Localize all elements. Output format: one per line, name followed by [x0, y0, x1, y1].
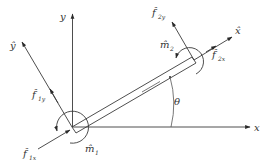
rod — [72, 57, 196, 133]
svg-text:2y: 2y — [157, 13, 166, 21]
svg-text:m̂: m̂ — [85, 143, 94, 154]
svg-text:1: 1 — [95, 149, 99, 156]
free-body-diagram: y x ŷ f̂ 1y x̂ f̂ 2x f̂ 2 — [0, 0, 272, 162]
force-f2y-arrow — [172, 22, 194, 60]
force-f2y-label: f̂ 2y — [151, 7, 166, 21]
svg-text:1x: 1x — [29, 154, 37, 161]
svg-text:m̂: m̂ — [160, 39, 169, 50]
force-f1y-label: f̂ 1y — [31, 89, 46, 103]
svg-text:f̂: f̂ — [211, 49, 218, 60]
force-f1x-arrow — [38, 130, 70, 149]
svg-text:1y: 1y — [38, 95, 46, 103]
x-axis-label: x — [254, 122, 260, 133]
svg-text:f̂: f̂ — [31, 89, 38, 100]
force-f2x-label: f̂ 2x — [211, 49, 226, 62]
force-f1x-label: f̂ 1x — [22, 148, 37, 161]
svg-text:f̂: f̂ — [22, 148, 29, 159]
theta-label: θ — [174, 96, 180, 107]
x-hat-axis-label: x̂ — [235, 25, 241, 36]
y-hat-axis-label: ŷ — [9, 40, 16, 51]
svg-text:f̂: f̂ — [151, 7, 158, 18]
y-hat-axis — [22, 42, 72, 127]
force-f1y-arrow — [50, 89, 58, 103]
moment-m2-arc — [176, 48, 204, 74]
y-axis-label: y — [59, 11, 66, 22]
svg-text:2: 2 — [169, 45, 174, 52]
moment-m2-label: m̂ 2 — [160, 39, 174, 52]
svg-text:2x: 2x — [217, 55, 226, 62]
moment-m1-label: m̂ 1 — [85, 143, 99, 156]
